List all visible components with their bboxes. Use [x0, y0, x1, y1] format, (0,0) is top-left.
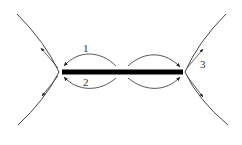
- right-boundary-curve: [185, 14, 228, 125]
- label-3: 3: [200, 58, 206, 70]
- right-lower-arrow: [187, 76, 203, 97]
- loop-lower-right: [128, 77, 180, 88]
- loop-2-left: [64, 77, 116, 88]
- diagram-canvas: 1 2 3: [0, 0, 242, 145]
- label-1: 1: [83, 42, 89, 54]
- label-2: 2: [83, 76, 89, 88]
- loop-1-left: [64, 54, 116, 66]
- left-boundary-curve: [17, 14, 59, 125]
- left-upper-arrow: [41, 48, 58, 68]
- loop-upper-right: [128, 55, 180, 67]
- left-lower-arrow: [42, 76, 58, 96]
- thick-bar: [62, 70, 183, 75]
